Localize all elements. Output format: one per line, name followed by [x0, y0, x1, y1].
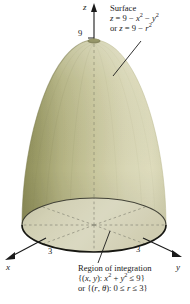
region-callout: Region of integration {(x, y): x2 + y2 ≤…: [78, 263, 152, 293]
x-axis: [5, 238, 46, 260]
z-axis-label: z: [83, 2, 87, 13]
x-axis-line: [12, 238, 46, 256]
paraboloid-surface-shading: [22, 40, 166, 225]
z-axis-arrowhead: [91, 3, 97, 12]
paraboloid-figure: z 9 x 3 y 3 Surface z = 9 − x2 − y2 or z…: [0, 0, 190, 304]
surface-eq-y-exponent: 2: [156, 11, 159, 18]
region-polar-close-paren: ): 0 ≤: [106, 283, 127, 293]
region-set-cartesian: {(x, y): x2 + y2 ≤ 9}: [78, 273, 152, 283]
y-axis-label: y: [176, 262, 180, 273]
surface-eq-operator: = 9 −: [113, 13, 136, 23]
region-callout-title: Region of integration: [78, 263, 152, 273]
surface-equation-polar: or z = 9 − r2: [110, 23, 159, 33]
z-axis: [88, 3, 97, 41]
x-axis-tick-label: 3: [48, 246, 52, 256]
z-axis-tick-label: 9: [78, 28, 82, 38]
surface-eq2-operator: = 9 −: [123, 23, 146, 33]
y-axis-arrowhead: [172, 250, 182, 257]
x-axis-arrowhead: [5, 252, 15, 260]
apex-cap-highlight: [89, 39, 99, 42]
region-set-le9: ≤ 9}: [127, 273, 144, 283]
x-axis-label: x: [6, 262, 10, 273]
region-polar-or: or {(: [78, 283, 94, 293]
surface-callout-title: Surface: [110, 3, 159, 13]
y-axis-line: [143, 238, 175, 253]
region-polar-le3: ≤ 3}: [130, 283, 147, 293]
region-of-integration-disc: [22, 198, 166, 252]
figure-canvas: [0, 0, 190, 304]
region-set-open: {(: [78, 273, 85, 283]
y-axis: [143, 238, 182, 257]
region-set-polar: or {(r, θ): 0 ≤ r ≤ 3}: [78, 283, 152, 293]
surface-eq2-or: or: [110, 23, 119, 33]
surface-callout: Surface z = 9 − x2 − y2 or z = 9 − r2: [110, 3, 159, 33]
surface-eq2-r-exponent: 2: [149, 21, 152, 28]
y-axis-tick-label: 3: [136, 244, 140, 254]
